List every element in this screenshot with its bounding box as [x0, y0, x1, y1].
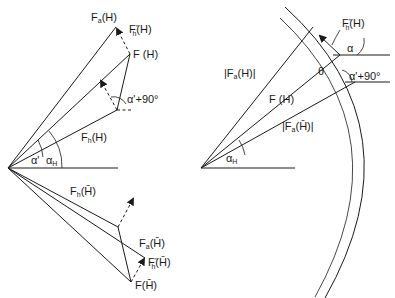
- dashed-arrow-perp-h: [101, 81, 117, 110]
- label-abs-fa-h: |Fa(H)|: [224, 67, 256, 80]
- dashed-arrow-perp-hbar: [118, 199, 133, 227]
- arrow-fh2-h-right: [320, 36, 340, 55]
- label-alpha-h-left: αH: [46, 154, 57, 167]
- label-fh2-hbar: F''h(H̄): [148, 256, 171, 270]
- label-alpha-h-right: αH: [226, 152, 237, 165]
- left-vector-diagram: Fa(H) F''h(H) F (H) α'+90° Fh(H) α' αH F…: [8, 11, 171, 291]
- label-fh-hbar: Fh(H̄): [70, 185, 96, 198]
- vector-abs-fa-h: [201, 27, 313, 168]
- label-abs-fa-hbar: |Fa(H̄)|: [282, 120, 314, 133]
- angle-arc-alpha: [357, 38, 364, 55]
- label-f-h-right: F (H): [269, 93, 294, 105]
- label-fa-h: Fa(H): [91, 11, 117, 24]
- label-f-hbar: F(H̄): [135, 279, 157, 291]
- vector-fa-hbar: [8, 168, 145, 258]
- right-circle-diagram: F''h(H) α θ α'+90° |Fa(H)| F (H) |Fa(H̄)…: [201, 7, 390, 298]
- label-theta: θ: [318, 65, 324, 77]
- label-alpha90-left: α'+90°: [127, 93, 159, 105]
- vector-fh-hbar-to-f-hbar: [118, 227, 131, 282]
- label-fh-h: Fh(H): [81, 131, 107, 144]
- label-fa-hbar: Fa(H̄): [139, 237, 165, 250]
- angle-arc-alpha-h-right: [239, 140, 245, 155]
- label-fh2-h: F''h(H): [129, 23, 152, 37]
- vector-fa-h: [8, 27, 116, 168]
- vector-fh-hbar: [8, 168, 118, 227]
- vector-f-h: [8, 54, 130, 168]
- structure-factor-diagram: Fa(H) F''h(H) F (H) α'+90° Fh(H) α' αH F…: [0, 0, 395, 298]
- label-f-h: F (H): [133, 48, 158, 60]
- label-fh2-h-right: F''h(H): [342, 17, 365, 31]
- leader-line-fh2-h: [332, 30, 340, 45]
- label-alpha90-right: α'+90°: [349, 70, 381, 82]
- label-alpha-prime: α': [31, 154, 39, 166]
- label-alpha: α: [347, 42, 354, 54]
- inner-circle-arc: [280, 18, 353, 297]
